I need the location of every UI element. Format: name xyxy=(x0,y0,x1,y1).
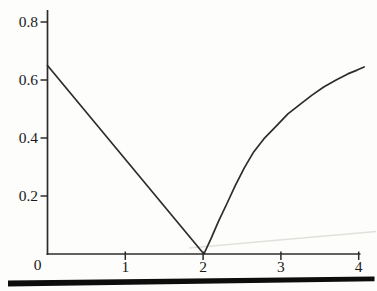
origin-label: 0 xyxy=(30,255,45,274)
y-tick-label-0.8: 0.8 xyxy=(8,12,38,32)
x-tick-label-1: 1 xyxy=(113,257,137,276)
y-tick-label-0.6: 0.6 xyxy=(8,70,38,90)
plot-area xyxy=(0,0,377,291)
x-tick-label-3: 3 xyxy=(269,257,293,276)
y-tick-label-0.2: 0.2 xyxy=(8,186,38,206)
scanned-plot-figure: 0.8 0.6 0.4 0.2 1 2 3 4 0 xyxy=(0,0,377,291)
y-tick-label-0.4: 0.4 xyxy=(8,128,38,148)
x-tick-label-2: 2 xyxy=(191,257,215,276)
x-tick-label-4: 4 xyxy=(347,257,371,276)
